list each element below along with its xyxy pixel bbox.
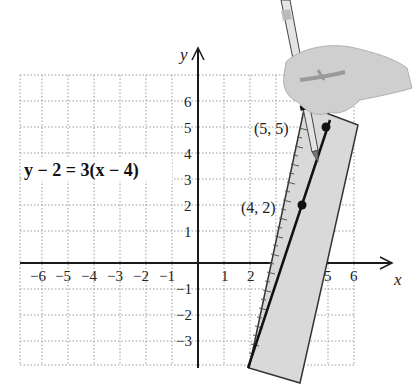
svg-text:2: 2 <box>184 198 192 214</box>
svg-text:−1: −1 <box>159 268 175 284</box>
equation-label: y − 2 = 3(x − 4) <box>24 160 139 181</box>
point-4-2 <box>298 201 307 210</box>
svg-text:−1: −1 <box>176 281 192 297</box>
x-axis-name: x <box>393 270 402 289</box>
hand-illustration <box>284 46 412 115</box>
coordinate-plane: x y −6 −5 −4 −3 −2 −1 1 2 3 5 6 6 5 4 3 … <box>0 0 414 385</box>
svg-text:1: 1 <box>221 268 229 284</box>
point-5-5 <box>322 123 331 132</box>
svg-text:3: 3 <box>184 172 192 188</box>
svg-text:−6: −6 <box>30 268 46 284</box>
svg-text:6: 6 <box>184 94 192 110</box>
svg-text:−2: −2 <box>133 268 149 284</box>
svg-text:−4: −4 <box>81 268 97 284</box>
svg-text:−3: −3 <box>107 268 123 284</box>
svg-text:5: 5 <box>184 120 192 136</box>
point-5-5-label: (5, 5) <box>254 120 289 138</box>
svg-text:−3: −3 <box>176 333 192 349</box>
ruler <box>249 105 358 383</box>
svg-text:6: 6 <box>350 268 358 284</box>
svg-text:2: 2 <box>247 268 255 284</box>
svg-text:−2: −2 <box>176 307 192 323</box>
graph-figure: x y −6 −5 −4 −3 −2 −1 1 2 3 5 6 6 5 4 3 … <box>0 0 414 385</box>
svg-text:−5: −5 <box>55 268 71 284</box>
y-axis-name: y <box>178 45 188 64</box>
point-4-2-label: (4, 2) <box>241 199 276 217</box>
svg-text:1: 1 <box>184 224 192 240</box>
svg-text:4: 4 <box>184 146 192 162</box>
y-tick-labels: 6 5 4 3 2 1 −1 −2 −3 <box>176 94 192 349</box>
